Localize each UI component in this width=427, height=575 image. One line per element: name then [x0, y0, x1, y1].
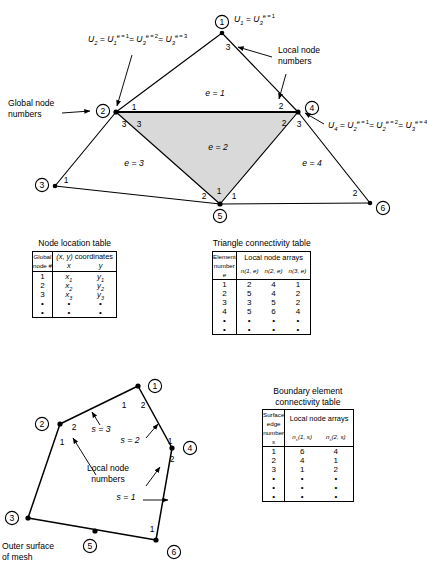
local-number: 3 [122, 119, 127, 129]
outer-surface-annotation: Outer surface of mesh [2, 541, 54, 562]
cell-edge: 3 [263, 465, 285, 474]
table-row: 1 2 4 1 [213, 279, 311, 289]
boundary-global-node-2: 2 [40, 419, 45, 429]
local-node-numbers-line1: Local node [278, 45, 320, 56]
cell-x: x1 [52, 271, 84, 281]
local-number: 2 [279, 101, 284, 111]
cell-ns1: 6 [285, 447, 319, 457]
boundary-local-line1: Local node [87, 463, 129, 474]
header-element-line1: Element [213, 252, 236, 261]
cell-node: 2 [33, 281, 53, 290]
local-number: 2 [72, 422, 77, 432]
header-element-line3: e [213, 270, 236, 279]
cell-dot: • [52, 308, 84, 318]
cell-edge: 1 [263, 447, 285, 457]
cell-dot: • [262, 316, 286, 325]
local-number: 1 [60, 437, 65, 447]
header-xy-word: coordinates [75, 252, 113, 261]
cell-dot: • [285, 325, 310, 335]
local-number: 2 [202, 191, 207, 201]
table-continuation-row: • • • [263, 474, 354, 483]
cell-dot: • [263, 474, 285, 483]
boundary-element-table: Surface edge number s Local node arrays … [262, 409, 354, 502]
header-global-node-line1: Global [33, 252, 52, 261]
table-row: 2 5 4 2 [213, 289, 311, 298]
table-continuation-row: • • • [33, 299, 117, 308]
cell-dot: • [85, 299, 117, 308]
boundary-leader-arrows [73, 412, 168, 500]
triangular-element-mesh-diagram: 1 2 3 4 5 6 3 1 3 3 2 2 3 1 2 1 1 2 [0, 0, 422, 240]
cell-dot: • [319, 474, 353, 483]
header-local-node-arrays: Local node arrays [285, 410, 353, 428]
element-label-e3: e = 3 [124, 158, 144, 168]
cell-dot: • [285, 492, 319, 502]
header-xy-coordinates: (x, y) coordinates [52, 251, 116, 261]
local-number: 1 [64, 175, 69, 185]
cell-dot: • [213, 316, 237, 325]
cell-n2: 5 [262, 298, 286, 307]
header-ns2s: ns(2, s) [319, 427, 353, 446]
element-label-e4: e = 4 [302, 158, 322, 168]
global-node-numbers-annotation: Global node numbers [8, 98, 54, 119]
cell-dot: • [85, 308, 117, 318]
table-row: 3 x3 y3 [33, 290, 117, 299]
boundary-title-line2: connectivity table [262, 397, 354, 408]
local-number: 2 [170, 454, 175, 464]
cell-ns1: 1 [285, 465, 319, 474]
table-row: 3 3 5 2 [213, 298, 311, 307]
cell-dot: • [262, 325, 286, 335]
global-node-6: 6 [381, 203, 386, 213]
cell-dot: • [285, 483, 319, 492]
cell-dot: • [236, 316, 261, 325]
cell-x: x2 [52, 281, 84, 290]
cell-n3: 1 [285, 279, 310, 289]
local-number: 1 [132, 102, 137, 112]
header-surface-line3: number [263, 428, 284, 437]
global-node-3: 3 [40, 180, 45, 190]
local-number: 3 [226, 42, 231, 52]
table-continuation-row: • • • [33, 308, 117, 318]
cell-node: 1 [33, 271, 53, 281]
cell-n2: 4 [262, 289, 286, 298]
table-row: 2 4 1 [263, 456, 354, 465]
table-continuation-row: • • • • [213, 316, 311, 325]
eq4-text: U4 = U2e = 1= U2e = 2= U3e = 4 [328, 120, 427, 130]
cell-dot: • [33, 308, 53, 318]
boundary-local-node-numbers-annotation: Local node numbers [87, 463, 129, 484]
cell-n1: 2 [236, 279, 261, 289]
triangle-connectivity-table-wrap: Triangle connectivity table Element numb… [212, 238, 311, 335]
cell-ns1: 4 [285, 456, 319, 465]
local-number: 1 [217, 186, 222, 196]
header-element-line2: number [213, 261, 236, 270]
table-row: 1 6 4 [263, 447, 354, 457]
global-node-numbers-line1: Global node [8, 98, 54, 109]
cell-element: 4 [213, 307, 237, 316]
cell-element: 3 [213, 298, 237, 307]
local-number: 1 [232, 191, 237, 201]
cell-ns2: 4 [319, 447, 353, 457]
header-global-node: Global node # [33, 251, 53, 271]
cell-dot: • [319, 483, 353, 492]
eq2-text: U2 = U1e = 1= U3e = 2= U3e = 3 [88, 34, 187, 44]
table-header-row: Surface edge number s Local node arrays [263, 410, 354, 428]
node-location-table-wrap: Node location table Global node # (x, y)… [32, 238, 117, 318]
cell-n3: 2 [285, 289, 310, 298]
local-number: 2 [282, 118, 287, 128]
table-continuation-row: • • • • [213, 325, 311, 335]
header-surface-edge-number: Surface edge number s [263, 410, 285, 447]
cell-x: x3 [52, 290, 84, 299]
local-node-numbers-line2: numbers [278, 56, 320, 67]
boundary-local-line2: numbers [87, 474, 129, 485]
table-row: 3 1 2 [263, 465, 354, 474]
cell-n2: 4 [262, 279, 286, 289]
element-label-e2: e = 2 [208, 142, 228, 152]
table-row: 2 x2 y2 [33, 281, 117, 290]
cell-n3: 2 [285, 298, 310, 307]
node-location-table-title: Node location table [32, 238, 117, 249]
boundary-global-node-4: 4 [188, 443, 193, 453]
cell-dot: • [263, 492, 285, 502]
boundary-global-node-5: 5 [88, 541, 93, 551]
cell-dot: • [285, 474, 319, 483]
table-continuation-row: • • • [263, 483, 354, 492]
local-number: 1 [168, 436, 173, 446]
